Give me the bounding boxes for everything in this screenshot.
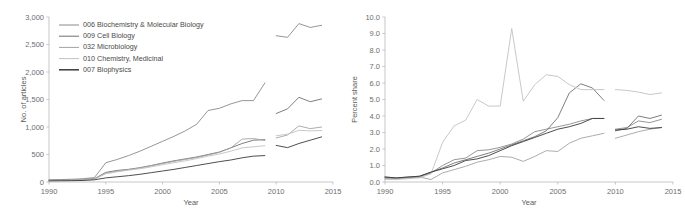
y-tick-label: 0.0 (370, 178, 380, 187)
series-line (385, 84, 604, 178)
x-tick-label: 2010 (607, 187, 624, 196)
y-tick-label: 2,000 (25, 68, 44, 77)
series-line (49, 83, 265, 180)
x-tick-label: 2005 (211, 187, 228, 196)
y-tick-label: 500 (31, 150, 44, 159)
series-line (385, 133, 604, 179)
y-tick-label: 4.0 (370, 112, 380, 121)
series-line (276, 24, 321, 38)
chart-svg-percent-share: 0.01.02.03.04.05.06.07.08.09.010.0199019… (343, 0, 685, 218)
series-line (276, 97, 321, 113)
y-tick-label: 5.0 (370, 95, 380, 104)
series-line (49, 146, 265, 181)
x-tick-label: 2010 (268, 187, 285, 196)
y-tick-label: 8.0 (370, 46, 380, 55)
legend-label: 010 Chemistry, Medicinal (83, 54, 164, 63)
series-line (276, 137, 321, 148)
legend-label: 006 Biochemistry & Molecular Biology (83, 20, 204, 29)
series-line (276, 130, 321, 136)
legend-label: 009 Cell Biology (83, 31, 135, 40)
legend-label: 032 Microbiology (83, 42, 138, 51)
chart-panel-articles: 05001,0001,5002,0002,5003,00019901995200… (0, 0, 343, 218)
chart-panel-percent-share: 0.01.02.03.04.05.06.07.08.09.010.0199019… (343, 0, 685, 218)
x-tick-label: 2005 (549, 187, 566, 196)
x-tick-label: 1995 (97, 187, 114, 196)
x-tick-label: 1990 (41, 187, 58, 196)
y-tick-label: 7.0 (370, 62, 380, 71)
x-tick-label: 2015 (325, 187, 342, 196)
series-line (615, 90, 661, 95)
y-axis-title: No. of articles (19, 76, 28, 122)
figure-two-panel-line-charts: 05001,0001,5002,0002,5003,00019901995200… (0, 0, 685, 218)
x-tick-label: 2000 (492, 187, 509, 196)
y-tick-label: 6.0 (370, 79, 380, 88)
y-tick-label: 2,500 (25, 40, 44, 49)
series-line (385, 29, 604, 180)
y-tick-label: 3,000 (25, 13, 44, 22)
series-line (276, 126, 321, 138)
x-tick-label: 2000 (154, 187, 171, 196)
y-tick-label: 3.0 (370, 128, 380, 137)
y-tick-label: 2.0 (370, 145, 380, 154)
series-line (385, 118, 604, 178)
legend-label: 007 Biophysics (83, 65, 132, 74)
x-tick-label: 1995 (434, 187, 451, 196)
series-line (49, 156, 265, 181)
y-tick-label: 0 (40, 178, 44, 187)
y-axis-title: Percent share (350, 76, 359, 123)
y-tick-label: 1,000 (25, 123, 44, 132)
x-axis-title: Year (521, 198, 537, 207)
y-tick-label: 1.0 (370, 161, 380, 170)
x-tick-label: 2015 (665, 187, 682, 196)
x-tick-label: 1990 (377, 187, 394, 196)
x-axis-title: Year (183, 198, 199, 207)
y-tick-label: 9.0 (370, 29, 380, 38)
y-tick-label: 10.0 (365, 13, 380, 22)
y-tick-label: 1,500 (25, 95, 44, 104)
chart-svg-articles: 05001,0001,5002,0002,5003,00019901995200… (0, 0, 343, 218)
